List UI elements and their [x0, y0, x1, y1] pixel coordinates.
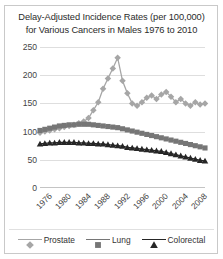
data-point-marker: [67, 122, 72, 127]
data-point-marker: [144, 132, 149, 137]
data-point-marker: [47, 126, 52, 131]
data-point-marker: [81, 122, 86, 127]
data-point-marker: [130, 128, 135, 133]
data-point-marker: [110, 125, 115, 130]
x-tick-label: 1992: [111, 191, 131, 211]
data-point-marker: [149, 133, 154, 138]
triangle-marker-icon: [142, 234, 166, 245]
chart-container: Delay-Adjusted Incidence Rates (per 100,…: [0, 0, 223, 259]
data-point-marker: [37, 128, 42, 133]
x-tick-label: 2004: [170, 191, 190, 211]
data-point-marker: [139, 131, 144, 136]
data-point-marker: [198, 144, 203, 149]
data-point-marker: [105, 124, 110, 129]
data-point-marker: [115, 125, 120, 130]
chart-title: Delay-Adjusted Incidence Rates (per 100,…: [8, 11, 215, 36]
y-tick-label: 100: [3, 127, 37, 137]
x-axis: 197619801984198819921996200020042008: [40, 189, 205, 223]
data-point-marker: [71, 122, 76, 127]
data-point-marker: [173, 139, 178, 144]
data-point-marker: [110, 65, 117, 72]
data-point-marker: [168, 137, 173, 142]
data-point-marker: [159, 135, 164, 140]
data-point-marker: [95, 99, 102, 106]
data-point-marker: [101, 123, 106, 128]
chart-title-line-2: for Various Cancers in Males 1976 to 201…: [8, 24, 215, 37]
diamond-marker-icon: [18, 234, 42, 245]
data-point-marker: [193, 143, 198, 148]
data-point-marker: [164, 136, 169, 141]
series-layer: [40, 47, 205, 188]
data-point-marker: [202, 145, 207, 150]
data-point-marker: [183, 141, 188, 146]
data-point-marker: [90, 107, 97, 114]
y-tick-label: 50: [3, 155, 37, 165]
legend-label: Colorectal: [168, 235, 206, 245]
data-point-marker: [52, 125, 57, 130]
data-point-marker: [91, 122, 96, 127]
data-point-marker: [114, 54, 121, 61]
plot-area: [40, 47, 205, 188]
legend-item-colorectal[interactable]: Colorectal: [142, 234, 206, 245]
legend-item-lung[interactable]: Lung: [86, 234, 131, 245]
data-point-marker: [96, 123, 101, 128]
data-point-marker: [188, 142, 193, 147]
data-point-marker: [100, 85, 107, 92]
data-point-marker: [125, 127, 130, 132]
y-axis: 250200150100500: [0, 47, 37, 188]
series-line: [40, 58, 205, 133]
y-tick-label: 0: [3, 183, 37, 193]
y-tick-label: 200: [3, 70, 37, 80]
legend-label: Prostate: [44, 235, 75, 245]
data-point-marker: [120, 126, 125, 131]
legend-item-prostate[interactable]: Prostate: [18, 234, 75, 245]
chart-title-line-1: Delay-Adjusted Incidence Rates (per 100,…: [18, 12, 204, 22]
data-point-marker: [57, 123, 62, 128]
data-point-marker: [76, 122, 81, 127]
x-tick-label: 1984: [73, 191, 93, 211]
data-point-marker: [124, 90, 130, 97]
legend-label: Lung: [112, 235, 131, 245]
data-point-marker: [86, 122, 91, 127]
x-tick-label: 2000: [150, 191, 170, 211]
x-tick-label: 1996: [131, 191, 151, 211]
x-tick-label: 1980: [53, 191, 73, 211]
chart-legend: ProstateLungColorectal: [9, 229, 214, 249]
x-tick-label: 1988: [92, 191, 112, 211]
y-tick-label: 150: [3, 98, 37, 108]
data-point-marker: [62, 123, 67, 128]
data-point-marker: [42, 127, 47, 132]
data-point-marker: [119, 78, 126, 85]
data-point-marker: [178, 140, 183, 145]
data-point-marker: [154, 134, 159, 139]
data-point-marker: [134, 130, 139, 135]
square-marker-icon: [86, 234, 110, 245]
y-tick-label: 250: [3, 42, 37, 52]
data-point-marker: [105, 75, 112, 82]
